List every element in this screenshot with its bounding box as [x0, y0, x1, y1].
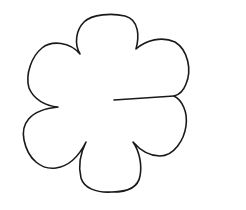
- cut-line: [114, 96, 174, 100]
- flower-outline: [23, 14, 188, 192]
- flower-template-canvas: six-petal flower outline: [0, 0, 246, 210]
- flower-outline-drawing: [0, 0, 246, 210]
